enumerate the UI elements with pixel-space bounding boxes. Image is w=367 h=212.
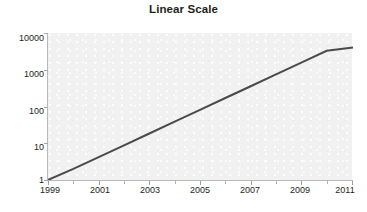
x-tick-mark-2005 — [200, 181, 201, 185]
chart-figure: Linear Scale 10000 1000 100 10 1 1999 20… — [0, 0, 367, 212]
x-tick-mark-2007 — [251, 181, 252, 185]
x-tick-mark-2009 — [301, 181, 302, 185]
x-tick-mark-2008 — [276, 181, 277, 184]
x-tick-label-2007: 2007 — [230, 185, 270, 196]
x-tick-mark-2001 — [99, 181, 100, 185]
x-tick-label-2005: 2005 — [180, 185, 220, 196]
x-tick-mark-1999 — [48, 181, 49, 185]
x-tick-mark-2006 — [225, 181, 226, 184]
x-tick-label-2011: 2011 — [325, 185, 365, 196]
x-tick-mark-2011 — [352, 181, 353, 185]
x-tick-mark-2000 — [73, 181, 74, 184]
x-tick-mark-2004 — [175, 181, 176, 184]
x-axis-tick-labels: 1999 2001 2003 2005 2007 2009 2011 — [0, 0, 367, 212]
x-tick-mark-2010 — [327, 181, 328, 184]
x-tick-label-2009: 2009 — [280, 185, 320, 196]
x-tick-label-2001: 2001 — [80, 185, 120, 196]
x-tick-mark-2003 — [149, 181, 150, 185]
x-tick-mark-2002 — [124, 181, 125, 184]
x-tick-label-1999: 1999 — [30, 185, 70, 196]
x-tick-label-2003: 2003 — [130, 185, 170, 196]
